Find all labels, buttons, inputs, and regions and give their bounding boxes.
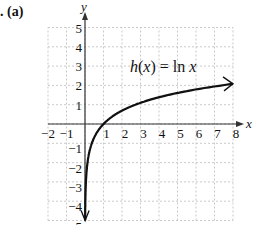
x-tick-label: 8 (233, 126, 240, 141)
x-tick-label: −1 (60, 126, 74, 141)
x-axis-label: x (245, 116, 252, 131)
x-tick-label: 5 (177, 126, 184, 141)
x-tick-label: −2 (41, 126, 55, 141)
y-tick-label: 4 (76, 40, 83, 55)
y-tick-label: −1 (68, 141, 82, 156)
y-axis-label: y (79, 0, 87, 14)
y-tick-label: −3 (68, 180, 82, 195)
y-tick-label: 5 (76, 21, 83, 36)
y-tick-label: 3 (76, 59, 83, 74)
y-tick-label: 1 (76, 98, 83, 113)
x-tick-label: 4 (159, 126, 166, 141)
function-annotation: h(x) = ln x (130, 58, 196, 76)
x-tick-label: 3 (140, 126, 147, 141)
x-tick-label: 6 (196, 126, 203, 141)
y-tick-label: −2 (68, 161, 82, 176)
y-tick-label: −4 (68, 199, 82, 214)
y-tick-label: −5 (68, 219, 82, 226)
x-tick-label: 2 (122, 126, 129, 141)
x-tick-label: 7 (214, 126, 221, 141)
graph-plot: −2−11234567854321−1−2−3−4−5 h(x) = ln x … (0, 0, 254, 225)
y-tick-label: 2 (76, 78, 83, 93)
x-tick-label: 1 (103, 126, 110, 141)
